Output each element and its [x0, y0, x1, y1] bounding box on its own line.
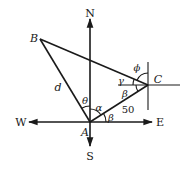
gamma-arc — [133, 79, 134, 85]
segment-bc — [40, 39, 148, 85]
bearing-diagram: N S W E B C A d 50 θ α β β γ ϕ — [0, 0, 190, 171]
beta-arc-c — [136, 85, 138, 91]
phi-arc — [137, 73, 148, 80]
gamma-label: γ — [118, 75, 124, 86]
point-c-label: C — [154, 73, 163, 86]
point-b-label: B — [29, 32, 38, 45]
segment-50-label: 50 — [122, 104, 135, 115]
east-label: E — [156, 116, 164, 129]
beta-arc-a — [104, 113, 107, 122]
phi-label: ϕ — [134, 62, 141, 73]
segment-ab — [40, 39, 90, 122]
theta-arc — [82, 106, 90, 108]
west-label: W — [15, 116, 27, 129]
point-a-label: A — [80, 126, 89, 139]
south-label: S — [86, 150, 94, 163]
beta-c-label: β — [121, 88, 128, 99]
beta-a-label: β — [107, 112, 114, 123]
theta-label: θ — [82, 95, 88, 106]
north-label: N — [85, 7, 95, 20]
segment-d-label: d — [54, 81, 61, 94]
alpha-label: α — [96, 102, 103, 113]
